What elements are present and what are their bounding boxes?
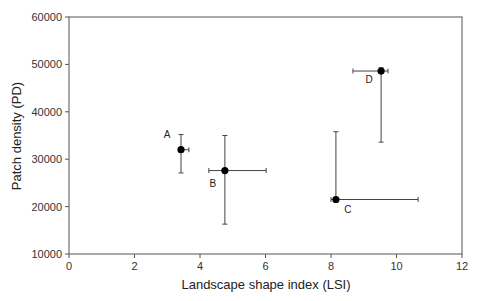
data-points: ABCD [164,67,418,224]
y-axis-title: Patch density (PD) [9,82,24,190]
y-tick-label: 50000 [31,58,62,70]
plot-frame [69,17,462,254]
point-label: C [344,204,351,215]
data-point-b: B [209,136,266,225]
x-tick-label: 8 [328,260,334,272]
y-tick-label: 30000 [31,153,62,165]
y-tick-label: 20000 [31,201,62,213]
point-marker [332,196,339,203]
data-point-c: C [331,132,418,216]
x-tick-label: 2 [131,260,137,272]
x-tick-label: 12 [456,260,468,272]
y-tick-label: 60000 [31,11,62,23]
axes: 024681012100002000030000400005000060000 [31,11,468,272]
scatter-chart: 024681012100002000030000400005000060000 … [0,0,481,301]
point-label: A [164,129,171,140]
x-tick-label: 10 [390,260,402,272]
point-marker [177,146,184,153]
point-marker [221,167,228,174]
y-tick-label: 40000 [31,106,62,118]
point-marker [378,67,385,74]
data-point-d: D [353,67,388,142]
point-label: D [365,74,372,85]
y-tick-label: 10000 [31,248,62,260]
x-tick-label: 6 [262,260,268,272]
point-label: B [210,178,217,189]
x-tick-label: 4 [197,260,203,272]
x-tick-label: 0 [66,260,72,272]
data-point-a: A [164,129,189,173]
x-axis-title: Landscape shape index (LSI) [181,277,350,292]
